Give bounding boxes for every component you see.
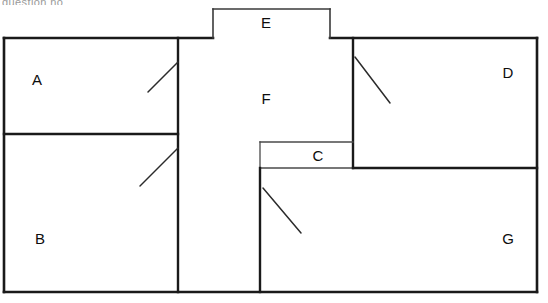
door-room-d: [355, 57, 390, 103]
room-label-e: E: [261, 15, 271, 30]
floor-plan-diagram: question no ABCDEFG: [0, 0, 548, 303]
door-room-g: [263, 188, 301, 233]
room-label-f: F: [261, 91, 270, 106]
room-label-b: B: [35, 231, 45, 246]
room-label-d: D: [503, 65, 514, 80]
walls-group: [4, 9, 537, 292]
room-label-g: G: [502, 231, 514, 246]
room-label-a: A: [32, 72, 42, 87]
room-label-c: C: [313, 148, 324, 163]
door-room-a: [148, 62, 178, 92]
floor-plan-canvas: [0, 0, 548, 303]
door-room-b: [140, 148, 178, 186]
